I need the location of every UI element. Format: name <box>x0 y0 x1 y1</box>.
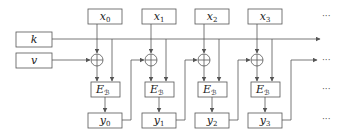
chain-arrow-2 <box>229 60 250 120</box>
continuation-dots-xor: ··· <box>322 55 331 65</box>
chain-arrow-0 <box>122 60 144 120</box>
continuation-dots-output: ··· <box>322 114 331 124</box>
iv-label: v <box>31 54 38 67</box>
chain-arrow-1 <box>176 60 197 120</box>
cbc-diagram: x0Eℬy0x1Eℬy1x2Eℬy2x3Eℬy3 k v ··· ··· ···… <box>0 0 341 135</box>
chain-arrow-3 <box>282 60 317 120</box>
key-label: k <box>31 33 38 46</box>
continuation-dots-plaintext: ··· <box>322 11 331 21</box>
continuation-dots-cipher: ··· <box>322 84 331 94</box>
